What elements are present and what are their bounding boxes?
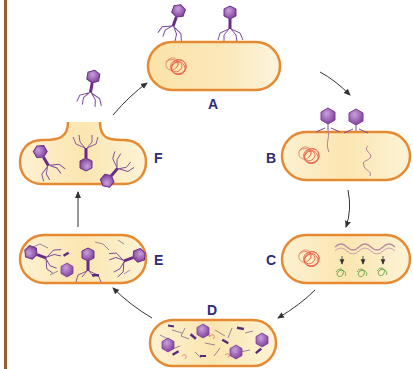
stage-label-a: A: [208, 96, 218, 112]
stage-label-d: D: [207, 302, 217, 318]
cell-stage-d: [150, 320, 276, 366]
stage-label-b: B: [266, 150, 276, 166]
arrow-a-to-b: [320, 72, 350, 95]
stage-label-e: E: [154, 252, 163, 268]
cell-stage-e: [20, 235, 150, 283]
stage-label-c: C: [266, 252, 276, 268]
cell-stage-c: [282, 235, 410, 283]
stage-label-f: F: [154, 150, 163, 166]
lytic-cycle-diagram: A B C D E F: [0, 0, 413, 369]
arrow-f-to-a: [113, 83, 147, 115]
cell-stage-f: [20, 68, 146, 193]
cell-stage-b: [282, 108, 410, 180]
arrow-d-to-e: [113, 288, 152, 318]
arrow-c-to-d: [278, 290, 315, 318]
arrow-b-to-c: [346, 190, 350, 227]
cell-stage-a: [148, 1, 280, 90]
